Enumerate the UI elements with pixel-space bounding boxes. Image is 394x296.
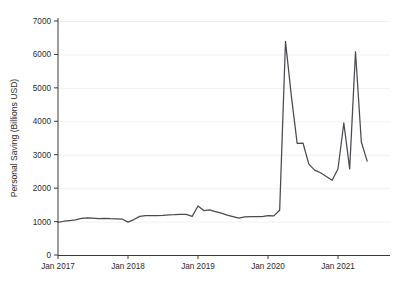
y-tick-label-0: 0 bbox=[46, 251, 51, 260]
line-chart-canvas: 01000200030004000500060007000 Jan 2017Ja… bbox=[0, 0, 394, 296]
x-tick-label-4: Jan 2021 bbox=[321, 262, 355, 271]
y-tick-label-6000: 6000 bbox=[33, 50, 52, 59]
x-tick-label-0: Jan 2017 bbox=[41, 262, 75, 271]
y-tick-label-7000: 7000 bbox=[33, 17, 52, 26]
y-axis-title: Personal Saving (Billions USD) bbox=[9, 79, 19, 198]
y-tick-label-1000: 1000 bbox=[33, 218, 52, 227]
x-tick-label-3: Jan 2020 bbox=[251, 262, 285, 271]
y-tick-label-4000: 4000 bbox=[33, 117, 52, 126]
chart-background bbox=[0, 0, 394, 296]
chart-figure: 01000200030004000500060007000 Jan 2017Ja… bbox=[0, 0, 394, 296]
y-tick-label-5000: 5000 bbox=[33, 84, 52, 93]
y-tick-label-3000: 3000 bbox=[33, 151, 52, 160]
x-tick-label-2: Jan 2019 bbox=[181, 262, 215, 271]
y-tick-label-2000: 2000 bbox=[33, 184, 52, 193]
x-tick-label-1: Jan 2018 bbox=[111, 262, 145, 271]
